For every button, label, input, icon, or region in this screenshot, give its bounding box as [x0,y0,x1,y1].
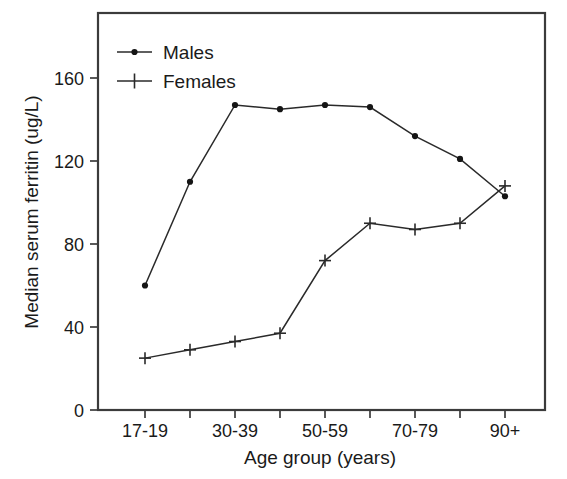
legend-label-males: Males [163,42,214,63]
data-point-marker [232,102,238,108]
y-tick-label-120: 120 [54,152,84,172]
data-point-marker [274,327,286,339]
series-layer [139,102,511,364]
x-axis-title: Age group (years) [244,447,396,468]
x-tick-label-30-39: 30-39 [212,421,258,441]
data-point-marker [142,282,148,288]
x-tick-label-70-79: 70-79 [392,421,438,441]
y-tick-label-160: 160 [54,69,84,89]
x-tick-label-90plus: 90+ [490,421,521,441]
y-tick-label-40: 40 [64,318,84,338]
data-point-marker [187,179,193,185]
y-tick-label-0: 0 [74,401,84,421]
x-axis-tick-labels: 17-19 30-39 50-59 70-79 90+ [122,421,520,441]
series-line-females [145,186,505,358]
data-point-marker [457,156,463,162]
data-point-marker [502,193,508,199]
y-axis-tick-labels: 160 120 80 40 0 [54,69,84,421]
data-point-marker [322,102,328,108]
chart-legend: Males Females [117,42,236,92]
series-females [139,180,511,364]
y-axis-ticks [90,78,98,410]
data-point-marker [409,223,421,235]
data-point-marker [139,352,151,364]
data-point-marker [412,133,418,139]
data-point-marker [277,106,283,112]
data-point-marker [229,336,241,348]
legend-entry-males: Males [117,42,214,63]
data-point-marker [184,344,196,356]
legend-entry-females: Females [117,71,236,92]
data-point-marker [367,104,373,110]
x-axis-ticks [145,410,505,418]
y-tick-label-80: 80 [64,235,84,255]
legend-label-females: Females [163,71,236,92]
legend-dot-marker-icon [131,49,137,55]
x-tick-label-50-59: 50-59 [302,421,348,441]
line-chart-figure: 160 120 80 40 0 17-19 30-39 50-59 70-79 … [0,0,567,479]
x-tick-label-17-19: 17-19 [122,421,168,441]
y-axis-title: Median serum ferritin (ug/L) [21,95,42,328]
